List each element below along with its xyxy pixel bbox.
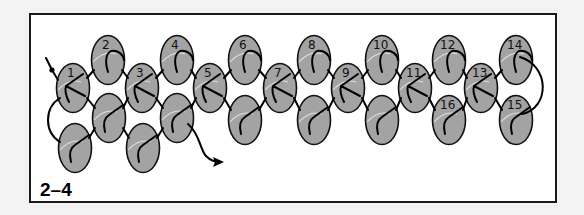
bead-shape <box>366 96 399 145</box>
bead-number: 15 <box>507 98 522 112</box>
bead-number: 9 <box>342 66 350 80</box>
bead <box>298 96 331 145</box>
bead-number: 2 <box>102 38 110 52</box>
bead <box>59 124 92 173</box>
needle-point-icon <box>49 67 54 72</box>
bead-shape <box>93 94 126 143</box>
bead <box>366 96 399 145</box>
bead-shape <box>59 124 92 173</box>
bead-number: 3 <box>136 66 144 80</box>
bead-number: 14 <box>507 38 522 52</box>
beading-diagram: 12345678910111213141516 2–4 <box>0 0 584 215</box>
bead <box>229 96 262 145</box>
bead-shape <box>161 94 194 143</box>
bead <box>127 124 160 173</box>
bead-number: 11 <box>406 66 421 80</box>
bead <box>93 94 126 143</box>
bead-number: 8 <box>308 38 316 52</box>
bead-number: 6 <box>239 38 247 52</box>
bead-shape <box>298 96 331 145</box>
bead-number: 12 <box>440 38 455 52</box>
bead-number: 7 <box>274 66 282 80</box>
bead-number: 10 <box>373 38 388 52</box>
bead <box>161 94 194 143</box>
diagram-canvas: 12345678910111213141516 2–4 <box>0 0 584 215</box>
bead-number: 5 <box>204 66 212 80</box>
bead-number: 13 <box>472 66 487 80</box>
bead-shape <box>229 96 262 145</box>
bead-number: 16 <box>440 98 455 112</box>
bead-shape <box>127 124 160 173</box>
bead-number: 4 <box>171 38 179 52</box>
figure-label: 2–4 <box>40 179 72 200</box>
bead-number: 1 <box>67 66 75 80</box>
